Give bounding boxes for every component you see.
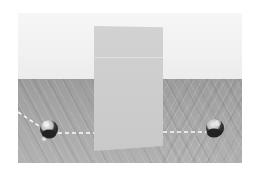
left-sphere <box>40 120 58 142</box>
sparkle-icon <box>41 136 47 142</box>
upright-panel <box>94 26 163 151</box>
trajectory-dashed-line-left-diagonal <box>18 112 42 128</box>
3d-scene <box>18 13 242 163</box>
right-sphere <box>206 119 224 138</box>
panel-horizon-reflection <box>94 57 163 58</box>
render-canvas <box>0 0 255 173</box>
